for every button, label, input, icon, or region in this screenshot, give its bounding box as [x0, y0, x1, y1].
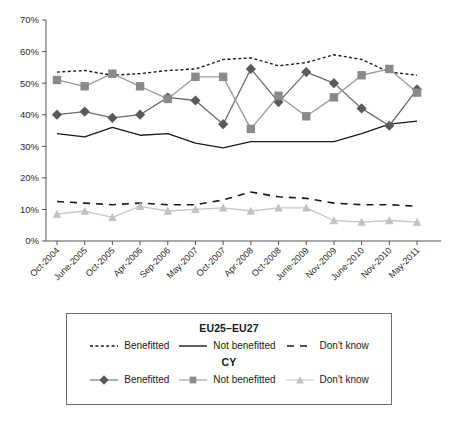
data-point-marker [413, 88, 421, 96]
data-point-marker [80, 106, 90, 116]
data-point-marker [80, 82, 88, 90]
legend-label-cy-dont-know: Don't know [320, 374, 369, 385]
legend-label-eu-dont-know: Don't know [320, 340, 369, 351]
data-point-marker [302, 112, 310, 120]
data-point-marker [80, 207, 89, 215]
svg-text:0%: 0% [25, 235, 39, 246]
svg-text:70%: 70% [20, 14, 40, 25]
svg-text:40%: 40% [20, 109, 40, 120]
series-line-eu25-eu27-don-t-know [57, 192, 417, 206]
legend-item-cy-not-benefitted: Not benefitted [178, 374, 275, 385]
legend-group-cy-title: CY [67, 351, 391, 368]
legend-item-eu-dont-know: Don't know [285, 340, 369, 351]
data-point-marker [330, 93, 338, 101]
legend-item-cy-benefitted: Benefitted [89, 374, 169, 385]
legend-group-eu-title: EU25–EU27 [67, 314, 391, 334]
square-marker-icon [178, 374, 208, 385]
legend-label-eu-benefitted: Benefitted [124, 340, 169, 351]
chart-legend: EU25–EU27 Benefitted Not benefitted Don'… [66, 313, 392, 405]
svg-text:60%: 60% [20, 46, 40, 57]
data-point-marker [52, 110, 62, 120]
svg-text:Apr-2008: Apr-2008 [222, 245, 255, 278]
data-point-marker [247, 125, 255, 133]
legend-item-cy-dont-know: Don't know [285, 374, 369, 385]
data-point-marker [274, 92, 282, 100]
legend-row-cy: Benefitted Not benefitted Don't know [67, 374, 391, 385]
dashed-line-icon [285, 340, 315, 351]
legend-label-cy-benefitted: Benefitted [124, 374, 169, 385]
data-point-marker [53, 76, 61, 84]
legend-label-eu-not-benefitted: Not benefitted [213, 340, 275, 351]
series-line-eu25-eu27-not-benefitted [57, 121, 417, 148]
data-point-marker [136, 82, 144, 90]
triangle-marker-icon [285, 374, 315, 385]
svg-text:Oct-2005: Oct-2005 [84, 245, 117, 278]
legend-label-cy-not-benefitted: Not benefitted [213, 374, 275, 385]
solid-line-icon [178, 340, 208, 351]
legend-item-eu-not-benefitted: Not benefitted [178, 340, 275, 351]
dotted-line-icon [89, 340, 119, 351]
data-point-marker [135, 110, 145, 120]
svg-text:50%: 50% [20, 78, 40, 89]
svg-text:30%: 30% [20, 141, 40, 152]
data-point-marker [384, 121, 394, 131]
svg-text:20%: 20% [20, 172, 40, 183]
diamond-marker-icon [89, 374, 119, 385]
data-point-marker [108, 69, 116, 77]
legend-item-eu-benefitted: Benefitted [89, 340, 169, 351]
data-point-marker [219, 73, 227, 81]
svg-text:Oct-2007: Oct-2007 [194, 245, 227, 278]
data-point-marker [164, 95, 172, 103]
data-point-marker [191, 73, 199, 81]
data-point-marker [107, 113, 117, 123]
data-point-marker [357, 71, 365, 79]
legend-row-eu: Benefitted Not benefitted Don't know [67, 340, 391, 351]
svg-text:10%: 10% [20, 204, 40, 215]
data-point-marker [385, 65, 393, 73]
line-chart-plot: 0%10%20%30%40%50%60%70%Oct-2004June-2005… [0, 0, 458, 312]
